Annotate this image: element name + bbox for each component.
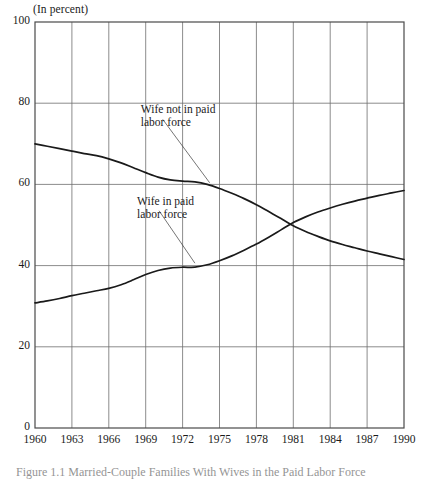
annotation-leader-lines [159, 119, 210, 263]
gridlines [35, 22, 404, 428]
y-tick-label: 20 [2, 339, 30, 351]
annotation-line-1: Wife not in paid [141, 103, 216, 116]
x-tick-label: 1966 [89, 433, 129, 445]
x-tick-label: 1978 [236, 433, 276, 445]
x-tick-label: 1981 [273, 433, 313, 445]
x-tick-label: 1990 [384, 433, 422, 445]
figure-caption: Figure 1.1 Married-Couple Families With … [16, 465, 366, 480]
y-tick-label: 60 [2, 176, 30, 188]
y-tick-label: 100 [2, 14, 30, 26]
x-tick-label: 1963 [52, 433, 92, 445]
annotation-line-2: labor force [137, 208, 194, 221]
series-annotation-1: Wife in paidlabor force [137, 195, 194, 221]
x-tick-label: 1969 [126, 433, 166, 445]
x-tick-label: 1987 [347, 433, 387, 445]
annotation-line-1: Wife in paid [137, 195, 194, 208]
x-tick-label: 1975 [200, 433, 240, 445]
x-tick-label: 1960 [15, 433, 55, 445]
annotation-line-2: labor force [141, 116, 216, 129]
x-tick-label: 1972 [163, 433, 203, 445]
series-annotation-0: Wife not in paidlabor force [141, 103, 216, 129]
y-tick-label: 80 [2, 95, 30, 107]
x-tick-label: 1984 [310, 433, 350, 445]
y-tick-label: 0 [2, 420, 30, 432]
y-tick-label: 40 [2, 258, 30, 270]
